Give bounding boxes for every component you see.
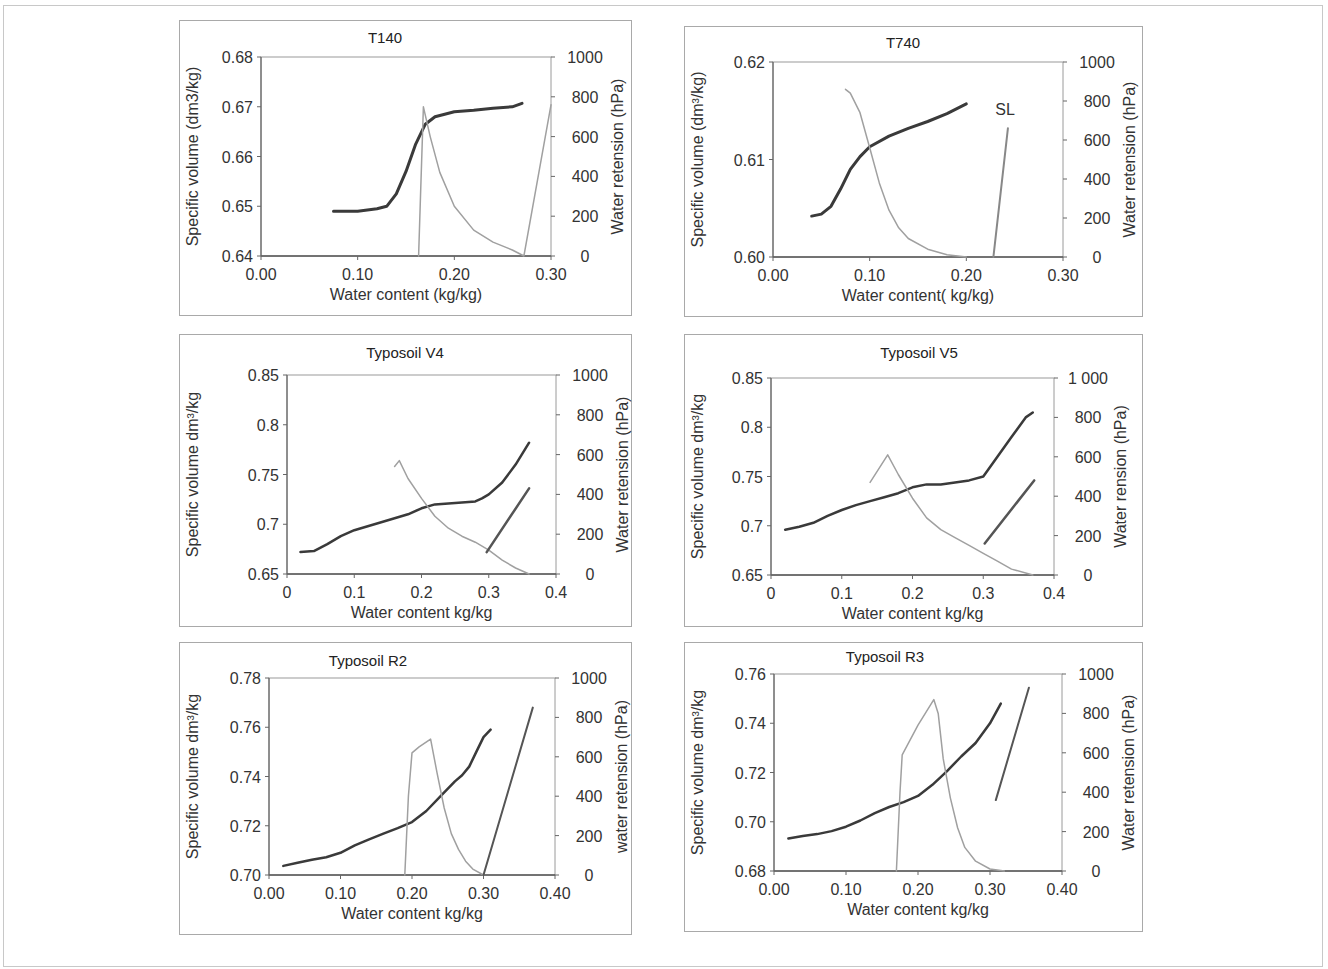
y-tick-label: 0.76 [735,666,766,683]
y2-tick-label: 400 [1075,488,1102,505]
panel-typosoil-r2: Typosoil R20.000.100.200.300.400.700.720… [179,642,632,935]
y2-tick-label: 0 [585,867,594,884]
y-tick-label: 0.70 [735,814,766,831]
y-tick-label: 0.60 [734,249,765,266]
y-tick-label: 0.7 [257,516,279,533]
chart-title: Typosoil V4 [366,344,444,361]
chart-typosoil-v4: Typosoil V400.10.20.30.40.650.70.750.80.… [180,335,633,628]
y-tick-label: 0.85 [248,367,279,384]
chart-title: T140 [368,29,402,46]
y-axis-label-left: Specific volume dm³/kg [689,690,706,855]
series-line [993,128,1008,257]
x-tick-label: 0 [767,585,776,602]
y-tick-label: 0.67 [222,99,253,116]
y2-tick-label: 600 [1084,132,1111,149]
y-axis-label-right: Water retension (hPa) [1120,695,1137,851]
y2-tick-label: 200 [572,208,599,225]
y2-tick-label: 0 [586,566,595,583]
series-line [487,488,529,552]
y2-tick-label: 800 [577,407,604,424]
x-tick-label: 0.20 [951,267,982,284]
chart-t740: T7400.000.100.200.300.600.610.6202004006… [685,27,1144,318]
x-tick-label: 0.30 [974,881,1005,898]
y2-tick-label: 400 [576,788,603,805]
x-tick-label: 0.4 [545,584,567,601]
x-tick-label: 0.2 [901,585,923,602]
y2-tick-label: 800 [1075,409,1102,426]
chart-typosoil-v5: Typosoil V500.10.20.30.40.650.70.750.80.… [685,335,1144,628]
x-tick-label: 0.10 [342,266,373,283]
y2-tick-label: 600 [1075,449,1102,466]
y-tick-label: 0.75 [732,469,763,486]
y2-tick-label: 400 [1084,171,1111,188]
y-tick-label: 0.78 [230,670,261,687]
y-tick-label: 0.74 [230,769,261,786]
y-tick-label: 0.85 [732,370,763,387]
y2-tick-label: 200 [1084,210,1111,227]
y-tick-label: 0.66 [222,149,253,166]
y-tick-label: 0.65 [248,566,279,583]
series-line [484,708,533,875]
x-tick-label: 0.2 [410,584,432,601]
y2-tick-label: 1000 [572,367,608,384]
plot-area [774,674,1062,871]
x-tick-label: 0.30 [535,266,566,283]
series-line [419,105,551,256]
y2-tick-label: 1 000 [1068,370,1108,387]
x-tick-label: 0.3 [478,584,500,601]
x-tick-label: 0.1 [831,585,853,602]
x-tick-label: 0.00 [758,881,789,898]
y-axis-label-left: Specific volume (dm³/kg) [689,71,706,247]
y-axis-label-left: Specific volume (dm3/kg) [184,67,201,247]
x-tick-label: 0 [283,584,292,601]
chart-title: Typosoil R2 [329,652,407,669]
series-line [334,103,523,211]
y-axis-label-left: Specific volume dm³/kg [184,392,201,557]
y2-tick-label: 600 [1083,745,1110,762]
y-tick-label: 0.65 [732,567,763,584]
x-tick-label: 0.10 [830,881,861,898]
y2-tick-label: 800 [1084,93,1111,110]
y-axis-label-right: Water rension (hPa) [1112,405,1129,548]
y-axis-label-left: Specific volume dm³/kg [184,694,201,859]
y-tick-label: 0.61 [734,152,765,169]
x-axis-label: Water content kg/kg [842,605,984,622]
y-tick-label: 0.65 [222,198,253,215]
y2-tick-label: 400 [572,168,599,185]
x-axis-label: Water content kg/kg [341,905,483,922]
y2-tick-label: 1000 [1078,666,1114,683]
x-tick-label: 0.10 [325,885,356,902]
y-axis-label-left: Specific volume dm³/kg [689,394,706,559]
x-tick-label: 0.20 [439,266,470,283]
series-line [788,704,1000,839]
y-tick-label: 0.76 [230,719,261,736]
series-line [785,413,1033,530]
x-tick-label: 0.40 [1046,881,1077,898]
x-axis-label: Water content (kg/kg) [330,286,482,303]
y2-tick-label: 0 [1092,863,1101,880]
y2-tick-label: 0 [581,248,590,265]
y-axis-label-right: Water retension (hPa) [1121,82,1138,238]
y-tick-label: 0.62 [734,54,765,71]
y2-tick-label: 400 [577,486,604,503]
chart-t140: T1400.000.100.200.300.640.650.660.670.68… [180,21,633,317]
x-tick-label: 0.30 [468,885,499,902]
y-tick-label: 0.75 [248,467,279,484]
y2-tick-label: 200 [577,526,604,543]
y2-tick-label: 400 [1083,784,1110,801]
x-axis-label: Water content( kg/kg) [842,287,994,304]
y-axis-label-right: Water retension (hPa) [614,397,631,553]
series-line [301,443,530,552]
y2-tick-label: 0 [1084,567,1093,584]
x-tick-label: 0.3 [972,585,994,602]
x-tick-label: 0.1 [343,584,365,601]
x-axis-label: Water content kg/kg [847,901,989,918]
y-tick-label: 0.8 [257,417,279,434]
y2-tick-label: 200 [576,828,603,845]
y-tick-label: 0.72 [735,765,766,782]
panel-typosoil-v4: Typosoil V400.10.20.30.40.650.70.750.80.… [179,334,632,627]
x-tick-label: 0.20 [396,885,427,902]
annotation-label: SL [995,101,1015,118]
x-tick-label: 0.10 [854,267,885,284]
chart-title: Typosoil V5 [880,344,958,361]
